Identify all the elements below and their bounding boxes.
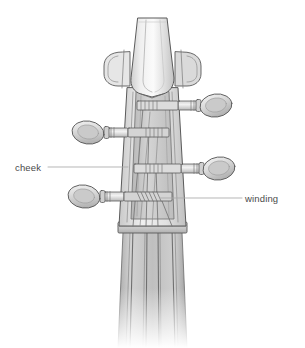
- peg-upper-right: [178, 92, 233, 119]
- violin-pegbox-diagram: cheek winding: [0, 0, 305, 348]
- fingerboard-group: [108, 228, 200, 348]
- peg-upper-left: [71, 119, 128, 146]
- scroll-group: [104, 18, 201, 98]
- violin-scroll-illustration: [0, 0, 305, 348]
- label-cheek: cheek: [15, 163, 41, 173]
- peg-lower-left: [67, 183, 124, 210]
- peg-lower-right: [181, 155, 236, 182]
- label-winding: winding: [245, 194, 278, 204]
